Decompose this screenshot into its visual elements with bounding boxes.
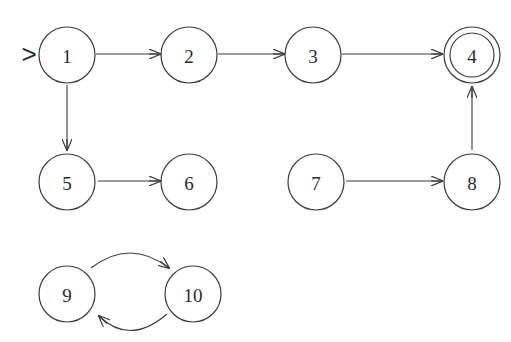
state-label: 1 [62,46,72,67]
state-label: 5 [62,173,72,194]
state-4-accepting: 4 [444,27,500,83]
state-10: 10 [165,266,221,322]
edges [67,54,472,331]
state-2: 2 [161,27,217,83]
state-label: 4 [467,46,477,67]
state-7: 7 [288,154,344,210]
state-label: 6 [184,173,194,194]
state-3: 3 [285,27,341,83]
edge-9-10 [91,253,169,268]
state-9: 9 [39,266,95,322]
state-8: 8 [444,154,500,210]
state-label: 2 [184,46,194,67]
edge-10-9 [99,314,167,331]
state-label: 9 [62,285,72,306]
start-marker-icon: > [21,39,36,69]
state-1: 1 [39,27,95,83]
state-label: 8 [467,173,477,194]
automaton-diagram: > 1 2 3 4 5 6 7 8 9 10 [0,0,511,342]
state-5: 5 [39,154,95,210]
state-label: 10 [184,285,203,306]
state-6: 6 [161,154,217,210]
state-label: 3 [308,46,318,67]
state-label: 7 [311,173,321,194]
